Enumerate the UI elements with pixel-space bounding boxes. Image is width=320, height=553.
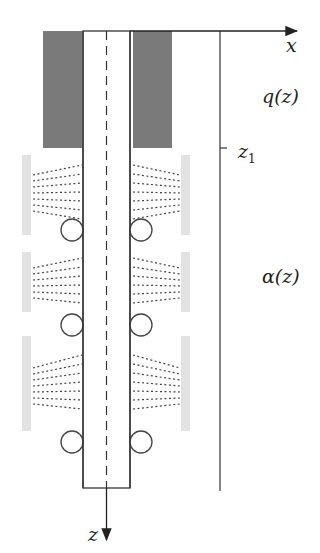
mould-block-right [133,31,172,148]
z-axis-label: z [88,525,98,544]
heat-flux-label: q(z) [262,87,299,106]
z1-label: z1 [238,142,256,165]
z1-main: z [238,140,248,162]
z1-subscript: 1 [248,152,256,166]
x-axis-label: x [286,36,297,55]
heat-transfer-coefficient-label: α(z) [262,267,300,286]
mould-block-left [43,31,82,148]
